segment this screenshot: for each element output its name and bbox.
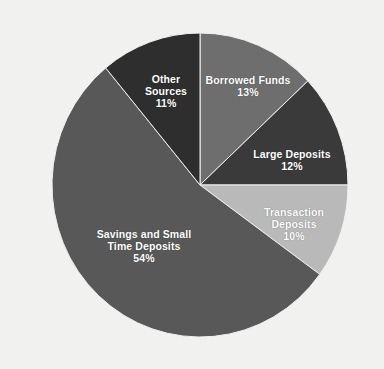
pie-chart: Borrowed Funds 13% Large Deposits 12% Tr… <box>0 0 384 369</box>
pie-chart-svg <box>0 0 384 369</box>
pie-slice-group <box>52 33 348 337</box>
